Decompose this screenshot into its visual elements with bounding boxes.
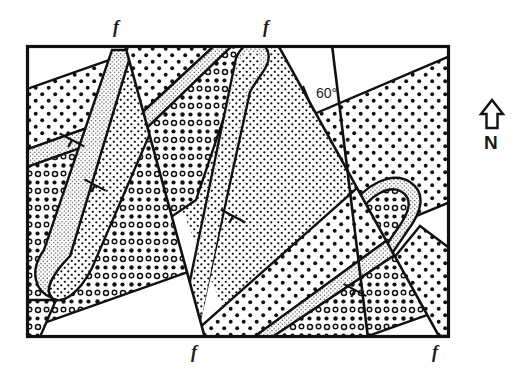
- geologic-map-figure: f f f f 60° N: [0, 0, 527, 381]
- fault-label-bottom-right: f: [432, 343, 438, 361]
- lithology-bands: [10, 28, 470, 360]
- fault-label-top-right: f: [263, 18, 269, 36]
- map-canvas: [0, 0, 527, 381]
- fault-label-bottom-left: f: [191, 343, 197, 361]
- north-label: N: [484, 133, 498, 152]
- dip-angle-label: 60°: [316, 86, 337, 100]
- fault-label-top-left: f: [113, 18, 119, 36]
- map-composite: [10, 28, 470, 360]
- north-arrow-icon: [481, 100, 503, 128]
